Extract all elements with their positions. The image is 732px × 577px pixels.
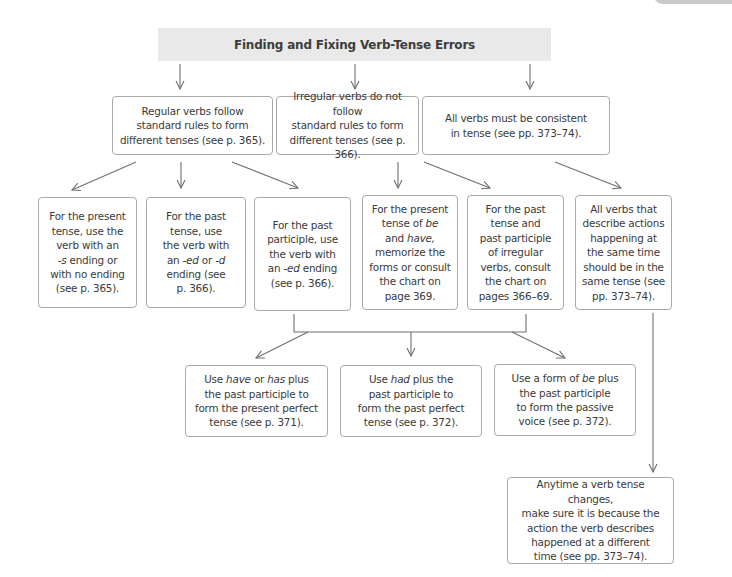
box-past-participle: For the pastparticiple, usethe verb with… [254, 197, 351, 311]
box-present-tense: For the presenttense, use theverb with a… [38, 197, 137, 308]
box-passive-voice: Use a form of be plusthe past participle… [494, 364, 636, 436]
box-present-tense-text: For the presenttense, use theverb with a… [49, 209, 125, 295]
box-passive-voice-text: Use a form of be plusthe past participle… [512, 371, 619, 429]
arrow-irregular-to-chart [424, 162, 490, 188]
box-present-perfect: Use have or has plusthe past participle … [185, 365, 328, 437]
box-be-have-text: For the presenttense of beand have,memor… [369, 202, 450, 303]
box-same-time-text: All verbs thatdescribe actionshappening … [582, 202, 665, 303]
box-same-time: All verbs thatdescribe actionshappening … [575, 195, 672, 310]
box-irregular-chart: For the pasttense andpast participleof i… [467, 195, 564, 310]
box-consistent-tense-text: All verbs must be consistentin tense (se… [445, 111, 587, 140]
box-irregular-verbs-text: Irregular verbs do not followstandard ru… [283, 89, 412, 161]
box-past-perfect-text: Use had plus thepast participle toform t… [358, 372, 465, 430]
box-tense-change: Anytime a verb tense changes,make sure i… [507, 477, 674, 564]
box-regular-verbs: Regular verbs followstandard rules to fo… [112, 96, 273, 155]
arrow-bracket-to-passive [512, 332, 565, 358]
box-be-have: For the presenttense of beand have,memor… [362, 195, 458, 310]
arrow-bracket-to-present-perfect [256, 332, 308, 358]
box-regular-verbs-text: Regular verbs followstandard rules to fo… [120, 104, 265, 147]
arrow-consistent-to-same-time [555, 162, 621, 188]
arrow-regular-to-present [72, 162, 136, 190]
bracket-connector [294, 314, 526, 332]
box-past-tense: For the pasttense, usethe verb withan -e… [146, 197, 246, 308]
box-irregular-chart-text: For the pasttense andpast participleof i… [479, 202, 553, 303]
box-consistent-tense: All verbs must be consistentin tense (se… [422, 96, 610, 155]
box-irregular-verbs: Irregular verbs do not followstandard ru… [276, 96, 419, 155]
arrow-regular-to-participle [232, 162, 298, 188]
box-past-participle-text: For the pastparticiple, usethe verb with… [267, 218, 338, 290]
box-tense-change-text: Anytime a verb tense changes,make sure i… [514, 477, 667, 563]
box-present-perfect-text: Use have or has plusthe past participle … [195, 372, 318, 430]
box-past-perfect: Use had plus thepast participle toform t… [340, 365, 482, 437]
box-past-tense-text: For the pasttense, usethe verb withan -e… [163, 209, 230, 295]
